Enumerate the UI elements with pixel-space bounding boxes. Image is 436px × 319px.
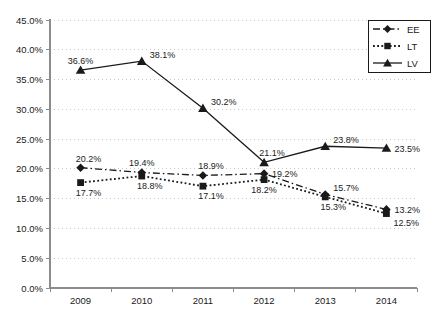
y-axis-label: 35.0%	[16, 74, 43, 85]
data-label-LT-2014: 12.5%	[393, 218, 419, 228]
data-label-LV-2012: 21.1%	[259, 148, 285, 158]
marker-LT-2010	[138, 173, 145, 180]
legend-marker-LT	[384, 43, 390, 49]
chart-canvas: 0.0%5.0%10.0%15.0%20.0%25.0%30.0%35.0%40…	[0, 0, 436, 319]
marker-LT-2011	[200, 183, 207, 190]
y-axis-label: 10.0%	[16, 223, 43, 234]
marker-LT-2013	[322, 193, 329, 200]
x-axis-label: 2012	[254, 295, 275, 306]
data-label-LT-2013: 15.3%	[320, 202, 346, 212]
data-label-LT-2012: 18.2%	[251, 185, 277, 195]
marker-LT-2009	[77, 179, 84, 186]
data-label-LT-2011: 17.1%	[198, 191, 224, 201]
marker-LT-2014	[383, 210, 390, 217]
x-axis-label: 2014	[376, 295, 397, 306]
data-label-LT-2010: 18.8%	[137, 181, 163, 191]
data-label-EE-2011: 18.9%	[198, 161, 224, 171]
data-label-EE-2014: 13.2%	[394, 205, 420, 215]
data-label-LV-2009: 36.6%	[68, 56, 94, 66]
y-axis-label: 5.0%	[21, 253, 43, 264]
x-axis-label: 2009	[70, 295, 91, 306]
y-axis-label: 0.0%	[21, 283, 43, 294]
data-label-LT-2009: 17.7%	[76, 188, 102, 198]
data-label-EE-2009: 20.2%	[76, 154, 102, 164]
y-axis-label: 25.0%	[16, 134, 43, 145]
data-label-EE-2013: 15.7%	[333, 183, 359, 193]
y-axis-label: 15.0%	[16, 193, 43, 204]
y-axis-label: 40.0%	[16, 44, 43, 55]
data-label-EE-2010: 19.4%	[129, 158, 155, 168]
marker-LT-2012	[261, 176, 268, 183]
x-axis-label: 2011	[193, 295, 213, 306]
y-axis-label: 45.0%	[16, 15, 43, 26]
legend-label-LV: LV	[407, 58, 419, 69]
data-label-LV-2013: 23.8%	[333, 135, 359, 145]
legend-label-EE: EE	[407, 24, 420, 35]
data-label-LV-2014: 23.5%	[394, 144, 420, 154]
legend	[368, 20, 430, 72]
legend-label-LT: LT	[407, 41, 418, 52]
data-label-EE-2012: 19.2%	[272, 169, 298, 179]
line-chart-figure: 0.0%5.0%10.0%15.0%20.0%25.0%30.0%35.0%40…	[0, 0, 436, 319]
data-label-LV-2011: 30.2%	[211, 97, 237, 107]
y-axis-label: 30.0%	[16, 104, 43, 115]
data-label-LV-2010: 38.1%	[150, 50, 176, 60]
y-axis-label: 20.0%	[16, 163, 43, 174]
x-axis-label: 2010	[131, 295, 152, 306]
x-axis-label: 2013	[315, 295, 336, 306]
